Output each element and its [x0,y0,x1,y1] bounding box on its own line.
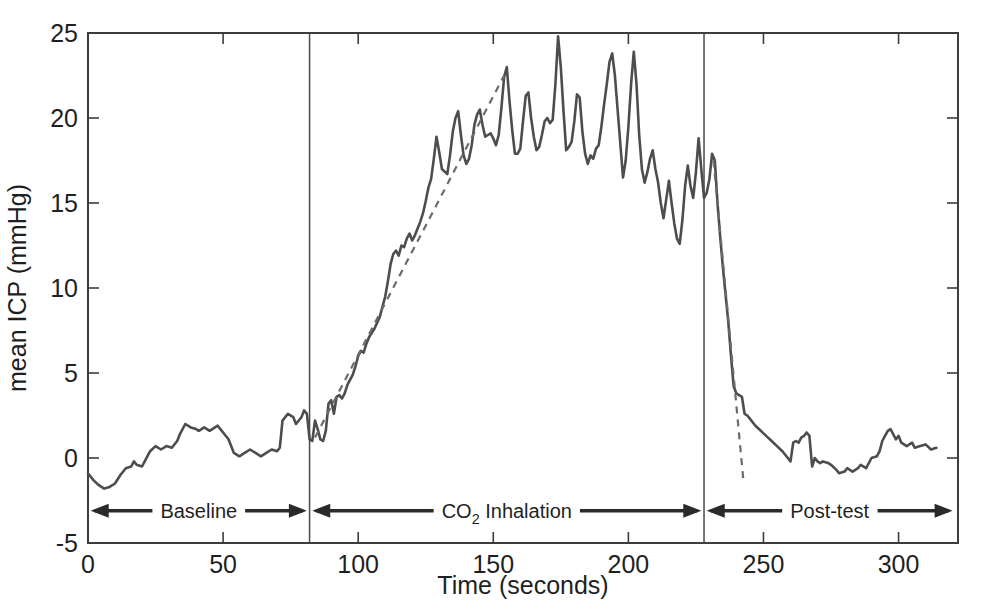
phase-annotations: BaselineCO2 InhalationPost-test [91,500,953,527]
axis-tick-labels: 050100150200250300-50510152025 [50,19,919,578]
line-chart: 050100150200250300-50510152025 BaselineC… [0,0,988,616]
y-tick-label: -5 [56,529,78,557]
x-axis-title: Time (seconds) [437,571,608,599]
icp-co2-figure: 050100150200250300-50510152025 BaselineC… [0,0,988,616]
phase-annotation: Baseline [91,500,307,522]
arrowhead-right [935,504,953,518]
y-tick-label: 25 [50,19,78,47]
arrowhead-left [312,504,330,518]
y-tick-label: 5 [64,359,78,387]
phase-annotation-label: Baseline [160,500,237,522]
x-tick-label: 300 [878,550,920,578]
phase-annotation-label: CO2 Inhalation [442,500,572,527]
rise-trend-line [315,76,504,438]
x-tick-label: 0 [81,550,95,578]
y-tick-label: 15 [50,189,78,217]
arrowhead-right [683,504,701,518]
y-tick-label: 20 [50,104,78,132]
arrowhead-right [289,504,307,518]
mean-icp-line [88,36,936,488]
data-series [88,36,936,488]
x-tick-label: 50 [209,550,237,578]
phase-annotation-label: Post-test [790,500,869,522]
arrowhead-left [707,504,725,518]
x-tick-label: 100 [337,550,379,578]
phase-annotation: CO2 Inhalation [312,500,701,527]
y-axis-title: mean ICP (mmHg) [3,184,31,392]
phase-dividers [310,33,704,543]
phase-annotation: Post-test [707,500,953,522]
x-tick-label: 200 [608,550,650,578]
x-tick-label: 250 [743,550,785,578]
y-tick-label: 0 [64,444,78,472]
arrowhead-left [91,504,109,518]
y-tick-label: 10 [50,274,78,302]
